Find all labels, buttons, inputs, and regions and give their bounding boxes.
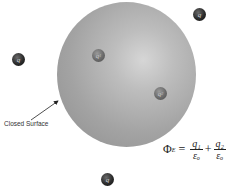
- denominator-1: εₒ: [191, 150, 202, 161]
- closed-surface-label: Closed Surface: [4, 120, 48, 127]
- fraction-term-2: q₂ εₒ: [214, 138, 226, 161]
- plus-sign: +: [205, 142, 212, 157]
- numerator-1: q₁: [190, 138, 202, 150]
- gauss-law-formula: ΦE = q₁ εₒ + q₂ εₒ: [163, 138, 228, 161]
- arrow-icon: [0, 0, 239, 190]
- numerator-2: q₂: [214, 138, 226, 150]
- flux-symbol: Φ: [163, 142, 172, 157]
- equals-sign: =: [178, 142, 185, 157]
- denominator-2: εₒ: [214, 150, 225, 161]
- fraction-term-1: q₁ εₒ: [190, 138, 202, 161]
- flux-subscript: E: [172, 147, 176, 153]
